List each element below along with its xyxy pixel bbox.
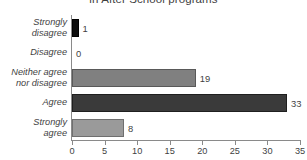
category-label-agree: Agree bbox=[0, 97, 67, 107]
category-label-strongly-disagree: Stronglydisagree bbox=[0, 17, 67, 38]
bar-row: 19 bbox=[72, 69, 300, 87]
x-axis-tick-label: 20 bbox=[197, 146, 207, 156]
label-line: disagree bbox=[0, 28, 67, 38]
category-label-disagree: Disagree bbox=[0, 47, 67, 57]
label-line: Neither agree bbox=[0, 67, 67, 77]
x-axis-tick-label: 35 bbox=[295, 146, 305, 156]
bar-chart: in After School programs Stronglydisagre… bbox=[0, 0, 307, 160]
x-axis-tick bbox=[235, 141, 236, 145]
label-line: Strongly bbox=[0, 17, 67, 27]
x-axis-tick bbox=[137, 141, 138, 145]
bar-value-label: 1 bbox=[79, 22, 88, 33]
chart-title: in After School programs bbox=[0, 0, 307, 5]
bar-value-label: 8 bbox=[124, 122, 133, 133]
plot-area: 1019338 bbox=[72, 15, 300, 140]
category-label-neither-agree-nor-disagree: Neither agreenor disagree bbox=[0, 67, 67, 88]
x-axis-tick bbox=[202, 141, 203, 145]
label-line: Disagree bbox=[0, 47, 67, 57]
x-axis-tick-label: 5 bbox=[102, 146, 107, 156]
label-line: agree bbox=[0, 128, 67, 138]
category-axis-labels: StronglydisagreeDisagreeNeither agreenor… bbox=[0, 15, 67, 140]
x-axis-tick bbox=[267, 141, 268, 145]
x-axis-tick-label: 10 bbox=[132, 146, 142, 156]
bar-value-label: 0 bbox=[72, 47, 81, 58]
label-line: nor disagree bbox=[0, 78, 67, 88]
bar-row: 33 bbox=[72, 94, 300, 112]
x-axis-tick-label: 25 bbox=[230, 146, 240, 156]
label-line: Strongly bbox=[0, 117, 67, 127]
x-axis-tick-label: 0 bbox=[69, 146, 74, 156]
x-axis-tick-label: 15 bbox=[165, 146, 175, 156]
bar-agree bbox=[72, 94, 287, 112]
bar-row: 1 bbox=[72, 19, 300, 37]
x-axis-tick bbox=[72, 141, 73, 145]
bar-value-label: 19 bbox=[196, 72, 210, 83]
x-axis-tick bbox=[170, 141, 171, 145]
bar-neither-agree-nor-disagree bbox=[72, 69, 196, 87]
bar-strongly-agree bbox=[72, 119, 124, 137]
bar-row: 0 bbox=[72, 44, 300, 62]
category-label-strongly-agree: Stronglyagree bbox=[0, 117, 67, 138]
bar-row: 8 bbox=[72, 119, 300, 137]
label-line: Agree bbox=[0, 97, 67, 107]
bar-value-label: 33 bbox=[287, 97, 301, 108]
x-axis-tick-label: 30 bbox=[262, 146, 272, 156]
x-axis-tick bbox=[105, 141, 106, 145]
x-axis-tick bbox=[300, 141, 301, 145]
